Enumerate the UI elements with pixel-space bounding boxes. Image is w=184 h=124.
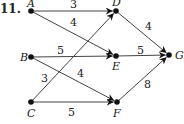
node-label-a: A bbox=[26, 0, 35, 10]
node-label-f: F bbox=[112, 107, 121, 120]
weighted-digraph: 11. 345435458 ABCDEFG bbox=[0, 0, 184, 124]
edge-labels-group: 345435458 bbox=[41, 0, 152, 119]
edge-weight-e-g: 5 bbox=[137, 44, 144, 57]
edge-weight-a-d: 3 bbox=[70, 0, 77, 11]
edge-b-e bbox=[31, 56, 113, 57]
problem-number: 11. bbox=[0, 2, 21, 16]
node-label-d: D bbox=[111, 0, 121, 9]
node-label-e: E bbox=[111, 60, 120, 73]
node-label-c: C bbox=[27, 107, 36, 120]
edge-weight-d-g: 4 bbox=[145, 20, 152, 33]
edge-weight-c-d: 3 bbox=[41, 72, 48, 85]
edge-f-g bbox=[117, 57, 167, 102]
edge-weight-f-g: 8 bbox=[144, 78, 151, 91]
node-e bbox=[113, 53, 119, 59]
node-f bbox=[114, 99, 120, 105]
node-c bbox=[28, 99, 34, 105]
node-b bbox=[28, 54, 34, 60]
node-d bbox=[113, 8, 119, 14]
node-label-g: G bbox=[175, 49, 184, 62]
node-g bbox=[166, 52, 172, 58]
edge-weight-c-f: 5 bbox=[68, 106, 75, 119]
edge-weight-b-f: 4 bbox=[77, 67, 84, 80]
edge-weight-a-e: 4 bbox=[70, 16, 77, 29]
edge-weight-b-e: 5 bbox=[57, 44, 64, 57]
node-label-b: B bbox=[19, 51, 28, 64]
